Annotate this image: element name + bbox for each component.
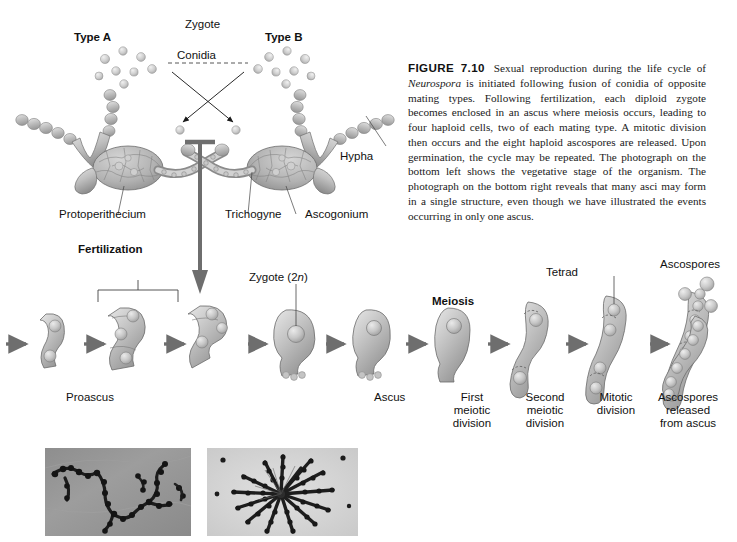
conidial-chain-right [291,90,307,137]
conidia-cluster-left [95,47,156,88]
label-second-meiotic-division: Second meiotic division [513,391,577,431]
figure-number: FIGURE 7.10 [408,61,485,74]
stage-0-line1: First [461,391,483,403]
landing-conidium-right [232,126,240,134]
stage-2-line1: Mitotic [599,391,632,403]
ascogonium-right [247,146,317,190]
stage-0-line3: division [453,417,491,429]
stage-1-line3: division [526,417,564,429]
stage-3-line2: released [666,404,710,416]
stage-ascus-forming [353,310,391,381]
stage-2-line2: division [597,404,635,416]
label-first-meiotic-division: First meiotic division [442,391,502,431]
stage-1-line2: meiotic [527,404,563,416]
stage-1-line1: Second [525,391,564,403]
micrograph-vegetative-stage [45,448,191,536]
released-ascospores [679,277,718,312]
figure-caption-text: Sexual reproduction during the life cycl… [408,62,706,222]
micrograph-asci-cluster [207,448,358,536]
stage-ascus [435,308,470,382]
hypha-foot-right [313,168,335,194]
stage-3-line1: Ascospores [658,391,718,403]
hypha-branch-left [16,115,76,145]
zygote-bracket [98,280,178,302]
figure-caption: FIGURE 7.10Sexual reproduction during th… [408,60,706,224]
label-zygote-2n: Zygote (2n) [249,271,308,284]
label-hypha: Hypha [340,150,373,163]
figure-7-10-root: Type A Zygote Type B Conidia Protoperith… [0,0,737,542]
zygote-2n-suffix: ) [304,271,308,283]
stage-first-meiotic-division [510,302,548,398]
stage-0-line2: meiotic [454,404,490,416]
label-mitotic-division: Mitotic division [586,391,646,417]
stage-zygote [274,284,315,380]
zygote-2n-prefix: Zygote (2 [249,271,298,283]
label-ascospores: Ascospores [660,258,720,271]
species-name: Neurospora [408,77,461,89]
stage-second-meiotic-division [586,276,627,404]
label-ascogonium: Ascogonium [305,208,368,221]
label-conidia: Conidia [177,49,216,62]
leader-ascogonium [286,186,296,214]
label-ascospores-released: Ascospores released from ascus [650,391,726,431]
landing-conidium-left [176,126,184,134]
stage-ascospores-released [655,272,737,402]
label-fertilization: Fertilization [78,243,143,256]
label-zygote-top: Zygote [185,18,220,31]
label-meiosis: Meiosis [432,295,474,308]
conidia-cluster-right [254,47,315,88]
stage-3-line3: from ascus [660,417,716,429]
label-type-a: Type A [74,31,111,44]
label-trichogyne: Trichogyne [225,208,281,221]
hypha-foot-left [75,168,97,194]
stage-proascus [40,314,64,368]
conidial-chain-left [103,90,119,137]
label-protoperithecium: Protoperithecium [59,208,146,221]
hypha-branch-right [334,115,394,145]
stage-crozier [108,308,145,370]
crossing-arrows [172,72,244,122]
protoperithecium-left [93,146,163,190]
label-ascus: Ascus [374,391,405,404]
stage-hook-fold [188,306,227,368]
label-type-b: Type B [265,31,303,44]
label-proascus: Proascus [66,391,114,404]
label-tetrad: Tetrad [546,266,578,279]
